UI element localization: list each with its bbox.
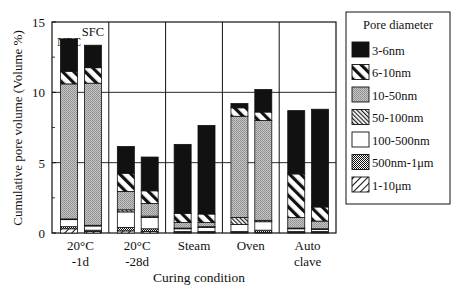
bar-segment-50-100nm (231, 218, 248, 225)
bar-segment-100-500nm (117, 212, 134, 227)
bar-segment-6-10nm (61, 71, 78, 84)
x-group-label: 20°C (124, 238, 151, 253)
bar-segment-10-50nm (141, 203, 158, 216)
x-group-label-line2: -28d (125, 254, 149, 269)
legend-title: Pore diameter (363, 18, 434, 32)
bar-segment-3-6nm (84, 45, 101, 68)
bar-20-c-28d-npc (117, 146, 134, 233)
bar-steam-sfc (198, 125, 215, 233)
bar-segment-100-500nm (61, 220, 78, 227)
bar-segment-100-500nm (231, 225, 248, 232)
bar-segment-6-10nm (141, 191, 158, 204)
bar-segment-3-6nm (231, 104, 248, 108)
bar-segment-10-50nm (255, 120, 272, 220)
legend-swatch-1-10-m (352, 177, 369, 192)
bar-segment-10-50nm (312, 221, 329, 229)
bar-oven-npc (231, 104, 248, 233)
bar-segment-3-6nm (198, 125, 215, 214)
legend-label: 50-100nm (372, 111, 424, 125)
bar-segment-100-500nm (288, 229, 305, 232)
bar-segment-500nm-1-m (117, 227, 134, 231)
bar-segment-10-50nm (288, 218, 305, 229)
bar-segment-100-500nm (174, 229, 191, 232)
y-tick-label: 15 (32, 15, 45, 30)
bar-steam-npc (174, 144, 191, 233)
bar-segment-100-500nm (255, 222, 272, 230)
legend-label: 500nm-1μm (372, 156, 434, 170)
bar-segment-10-50nm (117, 192, 134, 210)
bar-segment-6-10nm (255, 112, 272, 120)
y-tick-label: 0 (39, 226, 46, 241)
bar-oven-sfc (255, 90, 272, 233)
legend-label: 6-10nm (372, 66, 411, 80)
bar-annotation: NPC (57, 35, 81, 49)
bar-segment-6-10nm (84, 68, 101, 83)
legend-swatch-10-50nm (352, 87, 369, 102)
bar-segment-6-10nm (231, 108, 248, 116)
bar-segment-3-6nm (255, 90, 272, 113)
bar-segment-3-6nm (174, 144, 191, 213)
bar-segment-6-10nm (117, 173, 134, 191)
legend-swatch-6-10nm (352, 65, 369, 80)
x-axis-title: Curing condition (153, 270, 245, 285)
bar-segment-10-50nm (231, 116, 248, 217)
legend-label: 3-6nm (372, 44, 405, 58)
bar-segment-100-500nm (84, 226, 101, 230)
bar-segment-3-6nm (312, 109, 329, 207)
y-axis-title: Cumulative pore volume (Volume %) (10, 30, 25, 225)
bar-20-c-28d-sfc (141, 157, 158, 233)
bar-segment-3-6nm (117, 146, 134, 173)
legend-label: 100-500nm (372, 134, 430, 148)
bar-segment-100-500nm (198, 227, 215, 231)
bar-segment-10-50nm (198, 222, 215, 226)
bar-segment-3-6nm (141, 157, 158, 191)
bar-annotation: SFC (82, 25, 104, 39)
bar-segment-3-6nm (288, 111, 305, 174)
bar-segment-1-10-m (61, 229, 78, 233)
stacked-bar-chart: 051015NPCSFC20°C-1d20°C-28dSteamOvenAuto… (0, 0, 452, 298)
bar-20-c-1d-sfc (84, 45, 101, 233)
legend-label: 1-10μm (372, 179, 412, 193)
x-group-label-line2: -1d (72, 254, 90, 269)
bar-autoclave-npc (288, 111, 305, 233)
bar-autoclave-sfc (312, 109, 329, 233)
plot-area: 051015NPCSFC20°C-1d20°C-28dSteamOvenAuto… (32, 15, 336, 269)
legend-swatch-50-100nm (352, 110, 369, 125)
x-group-label: Auto (295, 238, 321, 253)
legend-swatch-3-6nm (352, 42, 369, 57)
bar-segment-10-50nm (84, 83, 101, 225)
bar-segment-10-50nm (61, 84, 78, 219)
bar-segment-10-50nm (174, 222, 191, 228)
bar-20-c-1d-npc (61, 39, 78, 233)
x-group-label: Steam (178, 238, 211, 253)
bar-segment-6-10nm (174, 213, 191, 222)
y-tick-label: 5 (39, 156, 46, 171)
bar-segment-100-500nm (141, 218, 158, 229)
legend: Pore diameter 3-6nm6-10nm10-50nm50-100nm… (346, 12, 450, 204)
bar-segment-6-10nm (198, 214, 215, 222)
bar-segment-500nm-1-m (141, 229, 158, 232)
y-tick-label: 10 (32, 85, 45, 100)
legend-swatch-500nm-1-m (352, 155, 369, 170)
bar-segment-6-10nm (312, 207, 329, 221)
legend-swatch-100-500nm (352, 132, 369, 147)
x-group-label: Oven (237, 238, 266, 253)
x-group-label: 20°C (67, 238, 94, 253)
bar-segment-6-10nm (288, 174, 305, 218)
legend-label: 10-50nm (372, 89, 417, 103)
x-group-label-line2: clave (294, 254, 322, 269)
